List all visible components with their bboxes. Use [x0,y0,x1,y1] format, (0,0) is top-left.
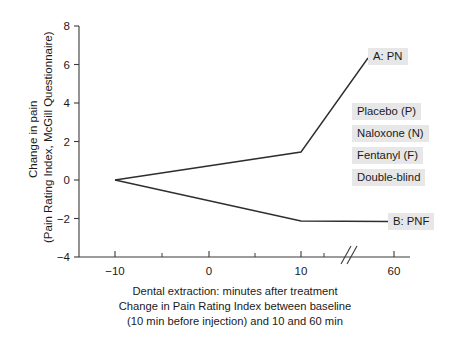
y-axis-label-line2: (Pain Rating Index, McGill Questionnaire… [41,31,55,243]
axis-break-icon [341,246,357,264]
series-label-b: B: PNF [388,213,434,230]
y-tick-label: −2 [57,213,70,225]
figure-container: 8 6 4 2 0 −2 −4 −10 0 10 60 [0,0,458,343]
x-tick-label: 60 [388,265,401,277]
y-tick-label: 6 [64,59,70,71]
y-tick-label: 8 [64,20,70,32]
legend-item-fentanyl: Fentanyl (F) [352,147,423,164]
y-tick-label: −4 [57,251,71,263]
y-tick-label: 2 [64,136,70,148]
legend-item-naloxone: Naloxone (N) [352,125,429,142]
y-axis-label-line1: Change in pain [26,101,40,178]
series-line-a-pn [115,58,368,180]
x-tick-label: 10 [295,265,308,277]
y-tick-label: 4 [64,97,71,109]
legend-item-double-blind: Double-blind [352,169,425,186]
caption-line-3: (10 min before injection) and 10 and 60 … [60,314,410,329]
series-label-a: A: PN [368,48,408,65]
legend-item-placebo: Placebo (P) [352,103,421,120]
y-tick-label: 0 [64,174,70,186]
caption-line-2: Change in Pain Rating Index between base… [60,299,410,314]
y-axis-ticks [74,26,79,257]
series-line-b-pnf [115,180,388,222]
legend: Placebo (P) Naloxone (N) Fentanyl (F) Do… [352,103,429,186]
x-tick-label: −10 [105,265,125,277]
x-axis-tick-labels: −10 0 10 60 [105,265,400,277]
caption-line-1: Dental extraction: minutes after treatme… [60,284,410,299]
x-tick-label: 0 [206,265,212,277]
y-axis-tick-labels: 8 6 4 2 0 −2 −4 [57,20,71,263]
chart-caption: Dental extraction: minutes after treatme… [60,284,410,328]
